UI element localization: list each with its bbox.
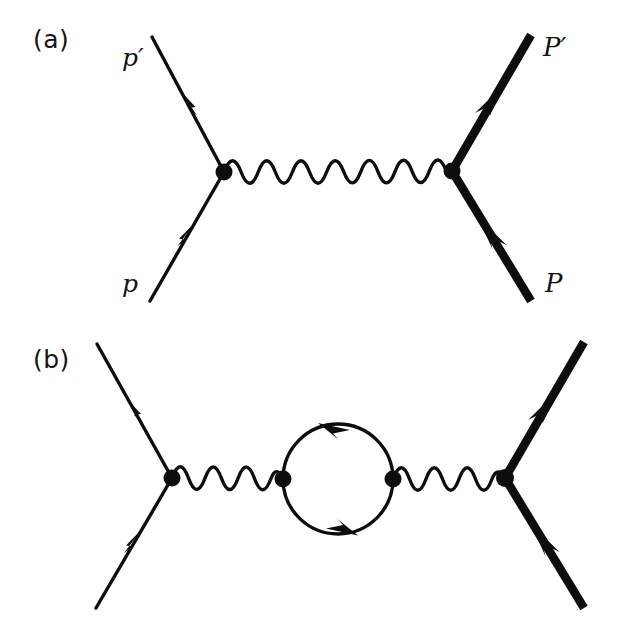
label-proton-out: P′	[542, 32, 566, 62]
feynman-figure: (a) p′ p P′ P	[0, 0, 620, 640]
panel-a-electron-vertex-dot	[216, 164, 233, 181]
figure-background	[0, 0, 620, 640]
feynman-diagram-canvas: (a) p′ p P′ P	[0, 0, 620, 640]
panel-b-loop-left-vertex-dot	[275, 471, 292, 488]
panel-a-proton-vertex-dot	[444, 163, 461, 180]
label-electron-out: p′	[122, 43, 144, 72]
label-electron-in: p	[122, 269, 138, 298]
label-proton-in: P	[544, 268, 563, 298]
panel-a-label: (a)	[33, 25, 69, 54]
panel-b-loop-right-vertex-dot	[385, 471, 402, 488]
panel-b-electron-vertex-dot	[164, 470, 181, 487]
panel-b-label: (b)	[33, 345, 70, 374]
panel-b-proton-vertex-dot	[496, 469, 514, 487]
